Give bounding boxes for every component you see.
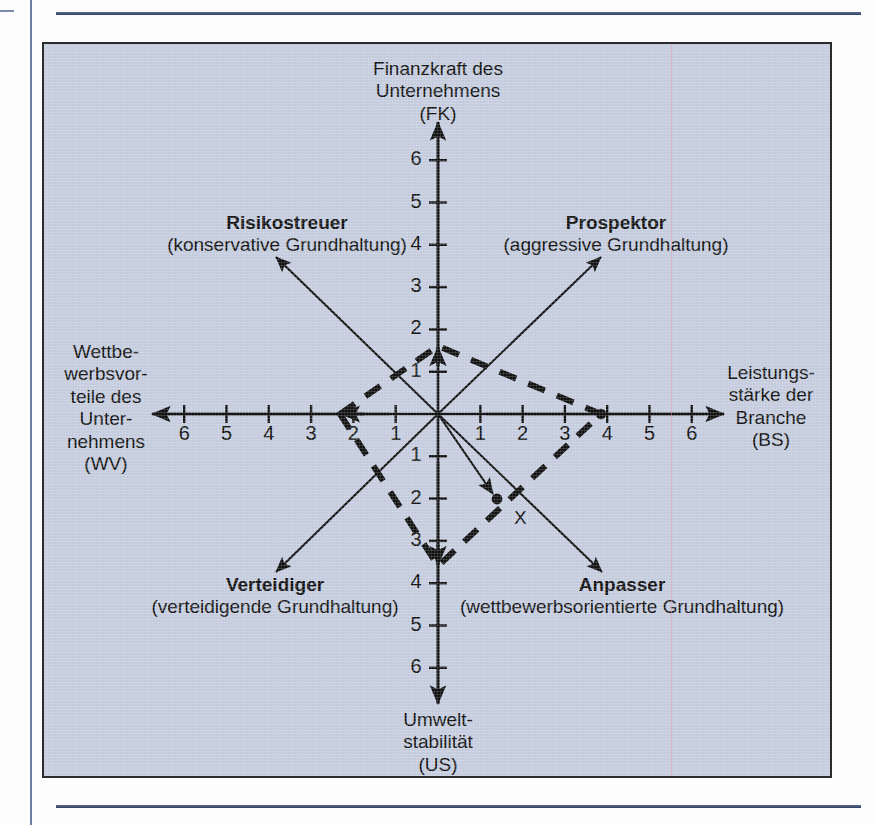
arrow-prospektor [438,257,601,414]
x-tick-label-right-4: 4 [602,422,613,445]
quadrant-subtitle: (wettbewerbsorientierte Grundhaltung) [460,596,784,618]
quadrant-label-anpasser: Anpasser (wettbewerbsorientierte Grundha… [460,574,784,619]
quadrant-label-prospektor: Prospektor (aggressive Grundhaltung) [504,212,729,257]
axis-title-left-line2: werbsvor- [64,363,147,385]
quadrant-name: Prospektor [504,212,729,234]
y-tick-label-up-5: 5 [410,190,421,213]
x-tick-label-left-5: 5 [221,422,232,445]
page-canvas: Finanzkraft des Unternehmens (FK) Umwelt… [0,0,876,825]
quadrant-name: Verteidiger [151,574,398,596]
strategic-point-label: X [514,507,527,529]
y-tick-label-down-3: 3 [410,528,421,551]
quadrant-label-risikostreuer: Risikostreuer (konservative Grundhaltung… [167,212,407,257]
axis-title-right-line4: (BS) [727,429,815,451]
quadrant-subtitle: (aggressive Grundhaltung) [504,234,729,256]
space-matrix-plot [44,44,832,778]
vertex-bs [596,409,606,419]
axis-title-bottom-line2: stabilität [403,731,473,753]
y-tick-label-down-2: 2 [410,486,421,509]
x-tick-label-left-3: 3 [306,422,317,445]
axis-title-top-line1: Finanzkraft des [373,58,503,80]
axis-title-left-line6: (WV) [64,453,147,475]
quadrant-subtitle: (konservative Grundhaltung) [167,234,407,256]
axis-title-top-line2: Unternehmens [373,80,503,102]
x-tick-label-left-2: 2 [348,422,359,445]
y-tick-label-up-3: 3 [410,274,421,297]
axis-title-left-line5: nehmens [64,431,147,453]
horizontal-rule-top [56,12,861,15]
y-tick-label-up-1: 1 [410,359,421,382]
strategic-point [492,494,503,505]
axis-title-left: Wettbe- werbsvor- teile des Unter- nehme… [64,341,147,475]
quadrant-name: Anpasser [460,574,784,596]
x-tick-label-left-1: 1 [390,422,401,445]
y-tick-label-down-5: 5 [410,613,421,636]
page-left-rule [30,0,32,825]
resultant-vector [438,414,502,504]
axis-title-bottom-line3: (US) [403,754,473,776]
y-tick-label-up-2: 2 [410,316,421,339]
x-tick-label-right-3: 3 [559,422,570,445]
y-tick-label-down-6: 6 [410,655,421,678]
y-tick-label-down-1: 1 [410,443,421,466]
x-tick-label-right-6: 6 [686,422,697,445]
y-tick-label-down-4: 4 [410,570,421,593]
x-tick-label-left-6: 6 [179,422,190,445]
y-tick-label-up-4: 4 [410,232,421,255]
axis-title-left-line1: Wettbe- [64,341,147,363]
axis-title-right: Leistungs- stärke der Branche (BS) [727,362,815,452]
quadrant-label-verteidiger: Verteidiger (verteidigende Grundhaltung) [151,574,398,619]
x-tick-label-right-1: 1 [475,422,486,445]
axis-title-right-line2: stärke der [727,384,815,406]
axis-title-top-line3: (FK) [373,103,503,125]
y-tick-label-up-6: 6 [410,147,421,170]
page-margin-tick [0,10,14,12]
axis-title-bottom: Umwelt- stabilität (US) [403,709,473,776]
quadrant-subtitle: (verteidigende Grundhaltung) [151,596,398,618]
axis-title-top: Finanzkraft des Unternehmens (FK) [373,58,503,125]
x-tick-label-right-2: 2 [517,422,528,445]
axis-title-bottom-line1: Umwelt- [403,709,473,731]
space-matrix-figure: Finanzkraft des Unternehmens (FK) Umwelt… [42,42,832,778]
scan-artifact-line [671,44,672,778]
x-tick-label-left-4: 4 [263,422,274,445]
axis-title-left-line4: Unter- [64,408,147,430]
x-tick-label-right-5: 5 [644,422,655,445]
horizontal-rule-bottom [56,805,861,808]
axis-title-left-line3: teile des [64,386,147,408]
quadrant-name: Risikostreuer [167,212,407,234]
axis-title-right-line1: Leistungs- [727,362,815,384]
axis-title-right-line3: Branche [727,407,815,429]
